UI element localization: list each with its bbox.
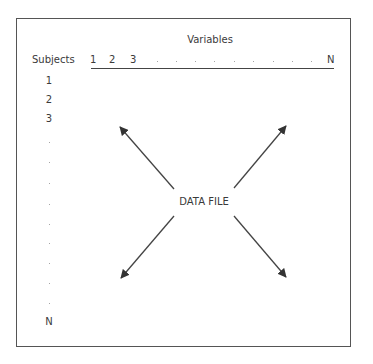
- arrow-up-left-icon: [120, 127, 174, 189]
- arrows-layer: [0, 0, 373, 364]
- arrow-down-right-icon: [234, 216, 286, 277]
- arrow-down-left-icon: [121, 216, 174, 278]
- arrow-up-right-icon: [234, 126, 286, 188]
- data-file-label: DATA FILE: [179, 197, 229, 207]
